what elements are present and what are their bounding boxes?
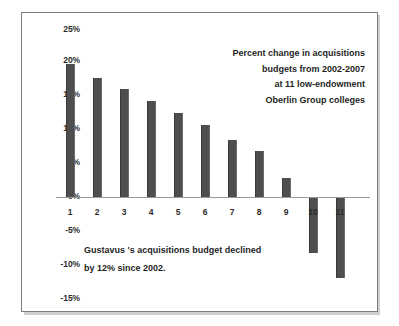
x-axis-tick-label: 4 xyxy=(139,207,163,217)
bar-8 xyxy=(255,151,264,197)
x-axis-tick-label: 9 xyxy=(274,207,298,217)
x-axis-tick-label: 3 xyxy=(112,207,136,217)
chart-title-line: budgets from 2002-2007 xyxy=(232,62,365,78)
chart-image: 25% 20% 15% 10% 5% 0% -5% -10% -15% xyxy=(0,0,399,326)
chart-annotation-line: Gustavus 's acquisitions budget declined xyxy=(84,241,261,259)
chart-annotation-line: by 12% since 2002. xyxy=(84,259,261,277)
y-axis-tick-label: 25% xyxy=(20,24,80,34)
bar-2 xyxy=(93,78,102,197)
chart-title-line: Oberlin Group colleges xyxy=(232,93,365,109)
x-axis-tick-label: 1 xyxy=(58,207,82,217)
plot-area: 25% 20% 15% 10% 5% 0% -5% -10% -15% xyxy=(22,13,379,313)
x-axis-tick-label: 10 xyxy=(301,207,325,217)
y-axis-tick-label: -10% xyxy=(20,259,80,269)
chart-title-line: Percent change in acquisitions xyxy=(232,46,365,62)
bar-10 xyxy=(309,197,318,253)
bar-3 xyxy=(120,89,129,197)
y-axis-tick-label: -5% xyxy=(20,225,80,235)
bar-7 xyxy=(228,140,237,197)
y-axis-tick-label: -15% xyxy=(20,293,80,303)
zero-axis-line xyxy=(56,197,370,198)
x-axis-tick-label: 2 xyxy=(85,207,109,217)
bar-1 xyxy=(66,64,75,197)
chart-frame: 25% 20% 15% 10% 5% 0% -5% -10% -15% xyxy=(21,12,378,312)
x-axis-tick-label: 5 xyxy=(166,207,190,217)
x-axis-tick-label: 7 xyxy=(220,207,244,217)
x-axis-tick-label: 11 xyxy=(328,207,352,217)
bar-5 xyxy=(174,113,183,197)
bar-6 xyxy=(201,125,210,197)
x-axis-tick-label: 6 xyxy=(193,207,217,217)
chart-title-line: at 11 low-endowment xyxy=(232,77,365,93)
x-axis-tick-label: 8 xyxy=(247,207,271,217)
chart-annotation: Gustavus 's acquisitions budget declined… xyxy=(84,241,261,277)
chart-title: Percent change in acquisitions budgets f… xyxy=(232,46,365,108)
bar-9 xyxy=(282,178,291,197)
bar-4 xyxy=(147,101,156,197)
